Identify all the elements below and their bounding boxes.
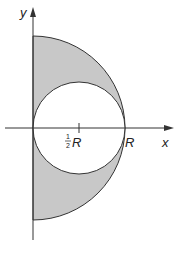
y-axis-label: y	[19, 5, 28, 20]
y-axis-arrow-icon	[30, 7, 36, 17]
x-axis-arrow-icon	[164, 125, 174, 131]
half-r-label: R	[72, 135, 81, 150]
r-label: R	[125, 135, 134, 150]
half-numerator: 1	[66, 133, 70, 140]
x-axis-label: x	[161, 135, 169, 150]
half-denominator: 2	[66, 142, 70, 149]
diagram: y x 1 2 R R	[0, 0, 182, 253]
